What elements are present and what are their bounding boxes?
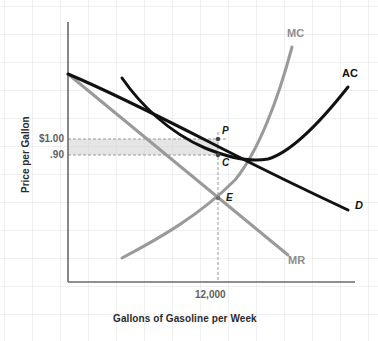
- point-c-label: C: [222, 158, 229, 168]
- point-e-label: E: [226, 193, 233, 203]
- y-axis-title: Price per Gallon: [20, 116, 31, 193]
- point-p-marker: [216, 137, 220, 141]
- mc-curve-label: MC: [287, 28, 304, 39]
- chart-canvas: [0, 0, 378, 341]
- point-e-marker: [216, 196, 220, 200]
- point-c-marker: [216, 153, 220, 157]
- x-axis-title: Gallons of Gasoline per Week: [113, 313, 257, 324]
- point-p-label: P: [222, 126, 229, 136]
- x-tick-label-12000: 12,000: [195, 290, 226, 300]
- chart-page: MC AC D MR P C E $1.00 .90 12,000 Gallon…: [0, 0, 378, 341]
- demand-curve-label: D: [355, 200, 363, 211]
- mr-curve-label: MR: [288, 255, 305, 266]
- ac-curve-label: AC: [342, 68, 358, 79]
- economic-profit-rectangle: [68, 139, 218, 155]
